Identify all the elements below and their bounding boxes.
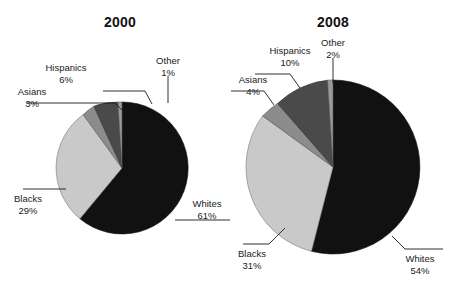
label-2008-asians-name: Asians bbox=[229, 74, 277, 86]
pie-2000 bbox=[56, 102, 188, 234]
label-2000-asians: Asians 3% bbox=[8, 86, 56, 109]
label-2000-whites-pct: 61% bbox=[183, 210, 231, 222]
label-2000-other-pct: 1% bbox=[145, 67, 191, 79]
pie-2008 bbox=[246, 80, 420, 254]
leader-2008-whites-stem bbox=[392, 236, 405, 249]
label-2008-blacks-pct: 31% bbox=[228, 260, 276, 272]
label-2000-blacks-name: Blacks bbox=[4, 193, 52, 205]
leader-2008-hispanics-stem bbox=[290, 74, 300, 88]
label-2000-whites-name: Whites bbox=[183, 198, 231, 210]
label-2000-asians-name: Asians bbox=[8, 86, 56, 98]
pie-charts-canvas bbox=[0, 0, 450, 291]
label-2008-asians: Asians 4% bbox=[229, 74, 277, 97]
label-2000-blacks: Blacks 29% bbox=[4, 193, 52, 216]
label-2000-hispanics-name: Hispanics bbox=[30, 62, 102, 74]
label-2000-hispanics: Hispanics 6% bbox=[30, 62, 102, 85]
label-2000-hispanics-pct: 6% bbox=[30, 74, 102, 86]
figure-root: 2000 2008 bbox=[0, 0, 450, 291]
label-2000-whites: Whites 61% bbox=[183, 198, 231, 221]
label-2008-whites-name: Whites bbox=[396, 253, 444, 265]
label-2008-whites-pct: 54% bbox=[396, 265, 444, 277]
label-2008-blacks: Blacks 31% bbox=[228, 248, 276, 271]
label-2008-other: Other 2% bbox=[310, 37, 356, 60]
label-2000-other-name: Other bbox=[145, 55, 191, 67]
label-2008-asians-pct: 4% bbox=[229, 86, 277, 98]
label-2008-blacks-name: Blacks bbox=[228, 248, 276, 260]
label-2000-other: Other 1% bbox=[145, 55, 191, 78]
label-2008-other-pct: 2% bbox=[310, 49, 356, 61]
label-2000-blacks-pct: 29% bbox=[4, 205, 52, 217]
label-2008-other-name: Other bbox=[310, 37, 356, 49]
label-2000-asians-pct: 3% bbox=[8, 98, 56, 110]
label-2008-whites: Whites 54% bbox=[396, 253, 444, 276]
leader-2000-hispanics-stem bbox=[145, 91, 152, 104]
